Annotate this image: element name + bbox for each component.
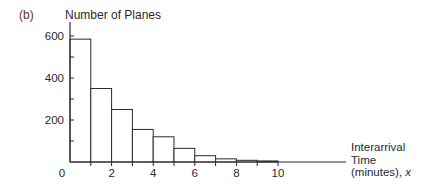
histogram-chart: 2004006000246810 <box>0 0 423 187</box>
x-tick-label: 2 <box>108 167 114 179</box>
y-tick-label: 400 <box>45 72 64 84</box>
x-tick-label: 0 <box>59 167 65 179</box>
y-tick-label: 600 <box>45 30 64 42</box>
histogram-bar <box>132 129 153 162</box>
histogram-bar <box>70 39 91 162</box>
histogram-bar <box>195 156 216 162</box>
histogram-bar <box>91 89 112 163</box>
x-tick-label: 4 <box>150 167 157 179</box>
x-tick-label: 8 <box>233 167 239 179</box>
histogram-bar <box>112 110 133 163</box>
x-tick-label: 6 <box>192 167 198 179</box>
histogram-bar <box>153 137 174 162</box>
y-tick-label: 200 <box>45 114 64 126</box>
histogram-bar <box>174 148 195 162</box>
x-tick-label: 10 <box>272 167 285 179</box>
histogram-bars <box>70 39 278 162</box>
